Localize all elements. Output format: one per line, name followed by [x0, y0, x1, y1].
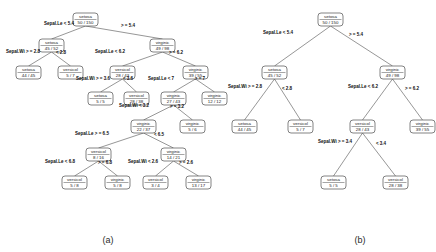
- node-class-label: virginic: [192, 177, 206, 182]
- node-counts: 3 / 4: [151, 183, 160, 188]
- tree-node[interactable]: virginic13 / 17: [186, 176, 211, 189]
- tree-node[interactable]: virginic5 / 6: [180, 120, 205, 133]
- tree-node[interactable]: setosa5 / 5: [321, 176, 346, 189]
- node-class-label: virginic: [208, 93, 222, 98]
- tree-node[interactable]: setosa5 / 5: [88, 92, 113, 105]
- node-counts: 28 / 38: [389, 183, 403, 188]
- node-counts: 28 / 43: [356, 127, 370, 132]
- node-class-label: virginic: [137, 121, 151, 126]
- edge-split-label: Sepal.Le < 5.4: [263, 30, 293, 35]
- edge-split-label: Sepal.Le < 5.4: [44, 21, 74, 26]
- edge-split-label: Sepal.Wi > = 2.8: [6, 49, 40, 54]
- node-class-label: virginic: [156, 40, 170, 45]
- edge-split-label: Sepal.Le < 6.8: [45, 159, 75, 164]
- node-class-label: setosa: [45, 40, 58, 45]
- tree-node[interactable]: setosa50 / 150: [318, 13, 343, 26]
- tree-node[interactable]: setosa50 / 150: [73, 13, 98, 26]
- node-class-label: virginic: [189, 67, 203, 72]
- node-class-label: versicol: [293, 121, 308, 126]
- panel-caption: (b): [355, 235, 366, 245]
- node-counts: 44 / 45: [238, 127, 252, 132]
- tree-edge: [174, 79, 196, 92]
- tree-node[interactable]: versicol5 / 8: [62, 176, 87, 189]
- node-counts: 5 / 6: [188, 127, 197, 132]
- tree-node[interactable]: virginic49 / 98: [380, 66, 405, 79]
- edge-split-label: > = 2.6: [179, 160, 194, 165]
- edge-split-label: > = 3.2: [170, 104, 185, 109]
- node-counts: 44 / 45: [22, 73, 36, 78]
- node-counts: 45 / 52: [268, 73, 282, 78]
- node-class-label: setosa: [324, 14, 337, 19]
- edge-split-label: Sepal.Le < 6.2: [95, 49, 125, 54]
- edge-split-label: > = 6.8: [98, 160, 113, 165]
- edge-split-label: < 3.4: [376, 141, 387, 146]
- tree-node[interactable]: virginic39 / 55: [410, 120, 435, 133]
- node-class-label: versicol: [355, 121, 370, 126]
- node-counts: 5 / 5: [329, 183, 338, 188]
- tree-node[interactable]: versicol28 / 43: [350, 120, 375, 133]
- node-class-label: setosa: [268, 67, 281, 72]
- node-counts: 49 / 98: [386, 73, 400, 78]
- panel-caption: (a): [103, 235, 114, 245]
- node-counts: 50 / 150: [78, 20, 94, 25]
- tree-edge: [29, 52, 52, 66]
- edge-split-label: Sepal.Wi > = 2.8: [228, 84, 262, 89]
- tree-node[interactable]: virginic5 / 8: [105, 176, 130, 189]
- tree-node[interactable]: versicol3 / 4: [143, 176, 168, 189]
- node-counts: 5 / 8: [113, 183, 122, 188]
- captions-layer: (a)(b): [103, 235, 366, 245]
- decision-tree-figure: setosa50 / 150setosa45 / 52virginic49 / …: [0, 0, 436, 252]
- node-counts: 12 / 12: [208, 99, 222, 104]
- node-class-label: virginic: [167, 93, 181, 98]
- edge-split-label: < 2.8: [56, 50, 67, 55]
- edge-split-label: Sepal.Wi > = 3.4: [318, 139, 352, 144]
- node-counts: 49 / 98: [156, 46, 170, 51]
- node-class-label: versicol: [129, 93, 144, 98]
- nodes-layer: setosa50 / 150setosa45 / 52virginic49 / …: [16, 13, 435, 189]
- edge-split-label: < 6.5: [154, 132, 165, 137]
- edge-split-label: Sepal.Le < 7: [148, 76, 175, 81]
- node-class-label: setosa: [22, 67, 35, 72]
- edge-split-label: > = 6.2: [169, 50, 184, 55]
- tree-node[interactable]: versicol28 / 38: [383, 176, 408, 189]
- tree-edge: [52, 26, 86, 39]
- node-class-label: versicol: [63, 67, 78, 72]
- edge-split-label: > = 6.2: [405, 86, 420, 91]
- tree-node[interactable]: virginic22 / 37: [131, 120, 156, 133]
- edge-split-label: > = 5.4: [121, 23, 136, 28]
- node-counts: 5 / 8: [70, 183, 79, 188]
- node-class-label: setosa: [94, 93, 107, 98]
- tree-edge: [75, 161, 99, 176]
- node-class-label: versicol: [91, 149, 106, 154]
- edge-split-label: Sepal.Wi > = 3.6: [76, 76, 110, 81]
- tree-edge: [123, 52, 163, 66]
- tree-node[interactable]: virginic12 / 12: [202, 92, 227, 105]
- node-class-label: versicol: [67, 177, 82, 182]
- tree-node[interactable]: setosa44 / 45: [232, 120, 257, 133]
- node-counts: 50 / 150: [323, 20, 339, 25]
- node-class-label: virginic: [111, 177, 125, 182]
- node-class-label: setosa: [327, 177, 340, 182]
- edge-split-label: Sepal.Le > = 6.5: [75, 131, 109, 136]
- tree-diagram-canvas: setosa50 / 150setosa45 / 52virginic49 / …: [0, 0, 436, 252]
- tree-edge: [363, 133, 396, 176]
- node-class-label: setosa: [79, 14, 92, 19]
- tree-node[interactable]: versicol5 / 7: [288, 120, 313, 133]
- node-class-label: virginic: [416, 121, 430, 126]
- edge-split-label: > = 7: [195, 76, 206, 81]
- node-class-label: versicol: [115, 67, 130, 72]
- node-class-label: versicol: [388, 177, 403, 182]
- edge-split-label: Sepal.Wi < 2.6: [128, 159, 159, 164]
- node-counts: 39 / 55: [416, 127, 430, 132]
- edge-split-label: Sepal.Le < 6.2: [348, 84, 378, 89]
- node-class-label: versicol: [148, 177, 163, 182]
- node-counts: 5 / 7: [296, 127, 305, 132]
- edge-split-label: > = 5.4: [349, 32, 364, 37]
- edge-split-label: Sepal.Wi < 3.2: [119, 103, 150, 108]
- tree-node[interactable]: setosa45 / 52: [262, 66, 287, 79]
- tree-node[interactable]: setosa44 / 45: [16, 66, 41, 79]
- tree-edge: [156, 161, 174, 176]
- edge-split-label: < 3.6: [123, 76, 134, 81]
- node-class-label: setosa: [238, 121, 251, 126]
- edge-split-label: < 2.8: [282, 86, 293, 91]
